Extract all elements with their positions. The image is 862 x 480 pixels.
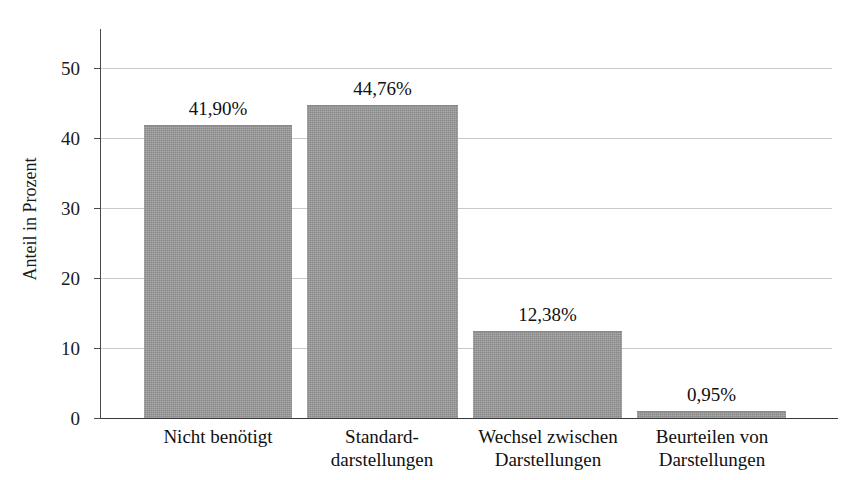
y-tick-mark-50 — [94, 68, 101, 69]
bar-nicht-benoetigt — [144, 125, 292, 418]
x-category-line: darstellungen — [292, 448, 472, 471]
y-tick-label-0: 0 — [44, 409, 80, 428]
y-tick-label-30: 30 — [44, 199, 80, 218]
y-tick-mark-0 — [94, 418, 101, 419]
x-category-line: Darstellungen — [458, 448, 638, 471]
y-tick-mark-20 — [94, 278, 101, 279]
y-axis-line — [100, 29, 101, 418]
x-axis-line — [100, 418, 838, 419]
gridline-50 — [101, 68, 832, 69]
x-category-label-0: Nicht benötigt — [128, 425, 308, 448]
y-tick-mark-10 — [94, 348, 101, 349]
x-category-line: Standard- — [292, 425, 472, 448]
y-tick-label-40: 40 — [44, 129, 80, 148]
bar-value-label-3: 0,95% — [637, 385, 786, 404]
y-tick-label-50: 50 — [44, 59, 80, 78]
bar-value-label-0: 41,90% — [144, 99, 292, 118]
x-category-line: Darstellungen — [622, 448, 802, 471]
x-category-label-2: Wechsel zwischenDarstellungen — [458, 425, 638, 471]
y-tick-label-10: 10 — [44, 339, 80, 358]
x-category-line: Nicht benötigt — [128, 425, 308, 448]
y-tick-label-20: 20 — [44, 269, 80, 288]
bar-value-label-1: 44,76% — [307, 79, 458, 98]
y-tick-mark-40 — [94, 138, 101, 139]
x-category-label-1: Standard-darstellungen — [292, 425, 472, 471]
bar-wechsel-zwischen-darstellungen — [473, 331, 622, 418]
x-category-line: Beurteilen von — [622, 425, 802, 448]
x-category-line: Wechsel zwischen — [458, 425, 638, 448]
bar-chart: 50 40 30 20 10 0 Anteil in Prozent 41,90… — [0, 0, 862, 480]
x-category-label-3: Beurteilen vonDarstellungen — [622, 425, 802, 471]
bar-beurteilen-von-darstellungen — [637, 411, 786, 418]
y-tick-mark-30 — [94, 208, 101, 209]
bar-value-label-2: 12,38% — [473, 305, 622, 324]
y-axis-title: Anteil in Prozent — [21, 89, 39, 349]
bar-standarddarstellungen — [307, 105, 458, 418]
